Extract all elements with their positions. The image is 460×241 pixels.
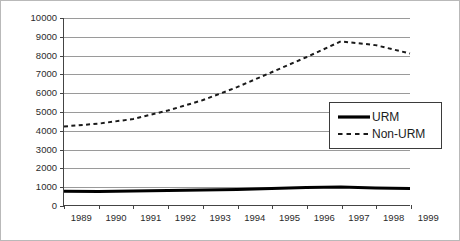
y-axis-label: 6000	[36, 88, 57, 98]
y-axis-label: 2000	[36, 164, 57, 174]
y-axis-label: 3000	[36, 145, 57, 155]
x-axis-label: 1989	[71, 213, 92, 223]
x-axis-tick	[168, 205, 169, 209]
x-axis-tick	[342, 205, 343, 209]
y-axis-label: 8000	[36, 51, 57, 61]
y-axis-label: 5000	[36, 107, 57, 117]
chart-legend: URM Non-URM	[329, 102, 442, 149]
x-axis-label: 1998	[383, 213, 404, 223]
y-axis-label: 10000	[31, 13, 57, 23]
x-axis-label: 1992	[175, 213, 196, 223]
x-axis-label: 1994	[244, 213, 265, 223]
legend-label-urm: URM	[372, 111, 399, 123]
x-axis-tick	[99, 205, 100, 209]
legend-label-non-urm: Non-URM	[372, 128, 425, 140]
solid-line-key	[336, 112, 372, 122]
y-axis-label: 1000	[36, 182, 57, 192]
series-line-urm	[64, 187, 410, 191]
x-axis-tick	[64, 205, 65, 209]
x-axis-tick	[133, 205, 134, 209]
dashed-line-key	[336, 129, 372, 139]
legend-item-non-urm: Non-URM	[336, 125, 435, 142]
x-axis-label: 1999	[418, 213, 439, 223]
x-axis-tick	[307, 205, 308, 209]
x-axis-tick	[272, 205, 273, 209]
y-axis-label: 7000	[36, 70, 57, 80]
x-axis-tick	[203, 205, 204, 209]
x-axis-tick	[238, 205, 239, 209]
x-axis-tick	[411, 205, 412, 209]
x-axis-label: 1993	[210, 213, 231, 223]
y-axis-label: 9000	[36, 32, 57, 42]
chart-figure: 0100020003000400050006000700080009000100…	[0, 0, 460, 241]
y-axis-label: 4000	[36, 126, 57, 136]
x-axis-tick	[376, 205, 377, 209]
x-axis-label: 1990	[105, 213, 126, 223]
x-axis-label: 1991	[140, 213, 161, 223]
y-axis-label: 0	[52, 201, 57, 211]
x-axis-label: 1996	[314, 213, 335, 223]
x-axis-label: 1995	[279, 213, 300, 223]
x-axis-label: 1997	[348, 213, 369, 223]
legend-item-urm: URM	[336, 108, 435, 125]
